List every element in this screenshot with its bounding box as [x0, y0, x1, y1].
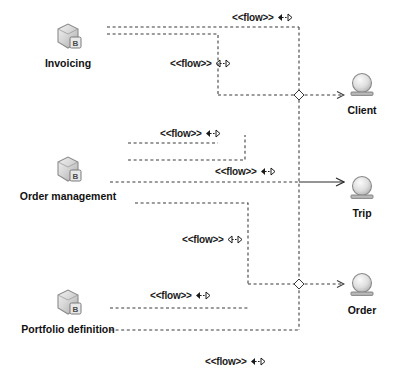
component-label: Portfolio definition: [21, 323, 114, 335]
double-arrow-icon: [260, 167, 276, 176]
flow-label-text: <<flow>>: [215, 166, 257, 177]
flow-label-1: <<flow>>: [232, 12, 293, 23]
svg-text:B: B: [73, 39, 79, 48]
junction-order: [294, 279, 304, 289]
diagram-canvas: B Invoicing B Order management: [0, 0, 402, 389]
double-arrow-icon: [195, 291, 211, 300]
double-arrow-icon: [205, 129, 221, 138]
svg-text:B: B: [73, 172, 79, 181]
flow-label-text: <<flow>>: [170, 58, 212, 69]
double-arrow-icon: [277, 13, 293, 22]
flow-label-5: <<flow>>: [182, 234, 243, 245]
ball-pedestal-icon: [347, 175, 377, 203]
flow-label-4: <<flow>>: [215, 166, 276, 177]
svg-text:B: B: [73, 305, 79, 314]
flow-label-text: <<flow>>: [160, 128, 202, 139]
interface-label: Trip: [352, 207, 371, 219]
flow-label-3: <<flow>>: [160, 128, 221, 139]
flow-label-text: <<flow>>: [232, 12, 274, 23]
ball-pedestal-icon: [347, 72, 377, 100]
double-arrow-icon: [250, 357, 266, 366]
flow-label-6: <<flow>>: [150, 290, 211, 301]
flow-label-2: <<flow>>: [170, 58, 231, 69]
flow-label-7: <<flow>>: [205, 356, 266, 367]
flow-label-text: <<flow>>: [182, 234, 224, 245]
component-icon: B: [51, 22, 85, 54]
component-icon: B: [51, 155, 85, 187]
interface-label: Order: [348, 304, 377, 316]
junction-client: [294, 90, 304, 100]
flow-label-text: <<flow>>: [150, 290, 192, 301]
component-label: Invoicing: [45, 57, 91, 69]
component-label: Order management: [20, 190, 116, 202]
component-icon: B: [51, 288, 85, 320]
double-arrow-icon: [227, 235, 243, 244]
flow-label-text: <<flow>>: [205, 356, 247, 367]
interface-label: Client: [347, 104, 376, 116]
double-arrow-icon: [215, 59, 231, 68]
ball-pedestal-icon: [347, 272, 377, 300]
